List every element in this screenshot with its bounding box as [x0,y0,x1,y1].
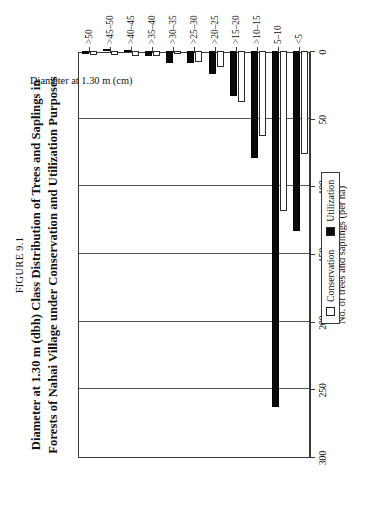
plot-area [78,52,310,458]
bar-utilization [293,51,300,231]
figure-body: FIGURE 9.1 Diameter at 1.30 m (dbh) Clas… [0,0,367,530]
bar-group [269,53,290,457]
category-tick [299,47,300,52]
legend-item-utilization: Utilization [325,180,336,236]
category-tick-label: >10–15 [252,15,262,44]
category-tick [215,47,216,52]
value-tick [310,51,315,52]
category-tick-label: >35–40 [147,15,157,44]
category-tick-label: <5 [294,34,304,44]
legend-swatch-utilization-icon [326,227,335,236]
bar-conservation [195,51,202,62]
bar-group [79,53,100,457]
value-tick [310,322,315,323]
value-tick [310,254,315,255]
bar-group [121,53,142,457]
category-axis-title: Diameter at 1.30 m (cm) [30,75,132,86]
bar-utilization [209,51,216,74]
value-tick-label: 50 [317,115,328,125]
figure-number: FIGURE 9.1 [14,0,25,530]
bar-group [227,53,248,457]
category-tick-label: 5–10 [273,25,283,44]
category-tick-label: >50 [84,29,94,44]
legend-swatch-conservation-icon [326,307,335,316]
figure-rotator: FIGURE 9.1 Diameter at 1.30 m (dbh) Clas… [0,0,367,530]
bar-utilization [251,51,258,158]
category-tick-label: >20–25 [210,15,220,44]
bar-utilization [272,51,279,407]
category-tick [89,47,90,52]
bar-utilization [166,51,173,63]
bar-group [142,53,163,457]
bar-utilization [230,51,237,96]
category-axis: <55–10>10–15>15–20>20–25>25–30>30–35>35–… [78,50,310,52]
category-tick-label: >25–30 [189,15,199,44]
bar-group [100,53,121,457]
plot-wrapper [78,52,310,458]
category-tick-label: >30–35 [168,15,178,44]
bar-group [248,53,269,457]
value-tick-label: 250 [317,383,328,397]
value-tick [310,389,315,390]
category-tick [236,47,237,52]
category-tick [173,47,174,52]
bar-conservation [217,51,224,67]
figure-number-label: FIGURE 9.1 [14,237,25,294]
bar-group [290,53,311,457]
bar-conservation [301,51,308,154]
category-tick [278,47,279,52]
category-tick [152,47,153,52]
legend-label-utilization: Utilization [325,180,336,222]
bar-group [184,53,205,457]
bars-layer [79,53,309,457]
figure-caption-line1: Diameter at 1.30 m (dbh) Class Distribut… [29,80,43,451]
category-tick [257,47,258,52]
bar-group [206,53,227,457]
legend-label-conservation: Conservation [325,250,336,302]
bar-conservation [238,51,245,102]
value-tick [310,457,315,458]
value-tick-label: 300 [317,451,328,465]
bar-conservation [280,51,287,211]
bar-conservation [259,51,266,136]
category-tick-label: >45–50 [105,15,115,44]
value-tick [310,186,315,187]
category-tick [131,47,132,52]
value-axis-line [310,52,311,458]
value-tick [310,119,315,120]
legend: Conservation Utilization [321,172,340,324]
category-tick [110,47,111,52]
bar-group [163,53,184,457]
category-tick-label: >40–45 [126,15,136,44]
figure-caption-line2: Forests of Nahai Village under Conservat… [46,76,60,453]
category-tick-label: >15–20 [231,15,241,44]
value-tick-label: 0 [317,50,328,55]
bar-utilization [187,51,194,63]
legend-item-conservation: Conservation [325,250,336,316]
category-tick [194,47,195,52]
